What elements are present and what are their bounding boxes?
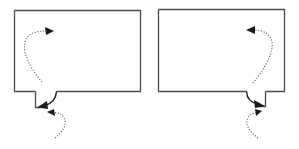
left-figure (15, 11, 141, 139)
left-outer-dotted-path (52, 113, 65, 138)
right-inner-arrowhead-icon (246, 26, 255, 34)
right-bubble-outline (159, 10, 285, 107)
right-outer-arrowhead-icon (255, 109, 262, 116)
right-outer-dotted-path (247, 113, 258, 138)
left-inner-arrowhead-icon (45, 27, 54, 35)
right-figure (159, 10, 285, 139)
diagram-canvas (0, 0, 299, 149)
right-inner-dotted-path (253, 30, 272, 83)
left-inner-dotted-path (24, 31, 46, 82)
left-outer-arrowhead-icon (47, 109, 55, 116)
left-bubble-outline (15, 11, 141, 108)
